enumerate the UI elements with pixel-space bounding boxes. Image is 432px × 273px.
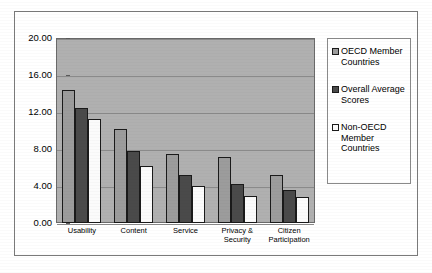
bar[interactable] — [283, 190, 296, 223]
legend-label: OECD Member Countries — [341, 46, 407, 67]
bar[interactable] — [218, 157, 231, 223]
bar[interactable] — [62, 90, 75, 223]
bar-group — [166, 38, 205, 223]
y-tick-label: 16.00 — [14, 70, 52, 80]
legend-swatch-icon — [332, 48, 339, 55]
gridline — [57, 224, 314, 225]
bar[interactable] — [244, 196, 257, 223]
bar-group — [114, 38, 153, 223]
bar[interactable] — [75, 108, 88, 223]
x-tick-label: Usability — [56, 226, 108, 235]
bar-chart-figure: 20.0016.0012.008.004.000.00 UsabilityCon… — [0, 0, 432, 273]
bar[interactable] — [179, 175, 192, 223]
x-tick-label: Service — [160, 226, 212, 235]
y-axis: 20.0016.0012.008.004.000.00 — [14, 31, 52, 231]
bar[interactable] — [296, 197, 309, 223]
y-tick-label: 20.00 — [14, 33, 52, 43]
x-tick-label: Privacy & Security — [211, 226, 263, 244]
legend-label: Overall Average Scores — [341, 84, 407, 105]
y-tick-label: 8.00 — [14, 144, 52, 154]
bar[interactable] — [270, 175, 283, 223]
y-tick-label: 4.00 — [14, 181, 52, 191]
bar[interactable] — [88, 119, 101, 223]
legend-swatch-icon — [332, 124, 339, 131]
bar[interactable] — [114, 129, 127, 223]
bar[interactable] — [231, 184, 244, 223]
y-tick-mark — [66, 223, 70, 224]
y-tick-label: 0.00 — [14, 218, 52, 228]
bars-layer — [56, 38, 315, 223]
bar[interactable] — [166, 154, 179, 223]
x-tick-label: Citizen Participation — [263, 226, 315, 244]
legend-item[interactable]: Overall Average Scores — [332, 84, 407, 105]
legend-item[interactable]: Non-OECD Member Countries — [332, 122, 407, 154]
bar[interactable] — [192, 186, 205, 223]
y-tick-label: 12.00 — [14, 107, 52, 117]
bar-group — [270, 38, 309, 223]
legend-label: Non-OECD Member Countries — [341, 122, 407, 154]
bar-group — [62, 38, 101, 223]
bar-group — [218, 38, 257, 223]
x-axis: UsabilityContentServicePrivacy & Securit… — [56, 226, 315, 252]
bar[interactable] — [127, 151, 140, 223]
bar[interactable] — [140, 166, 153, 223]
legend-item[interactable]: OECD Member Countries — [332, 46, 407, 67]
x-tick-label: Content — [108, 226, 160, 235]
legend-swatch-icon — [332, 86, 339, 93]
chart-legend: OECD Member CountriesOverall Average Sco… — [327, 38, 411, 184]
